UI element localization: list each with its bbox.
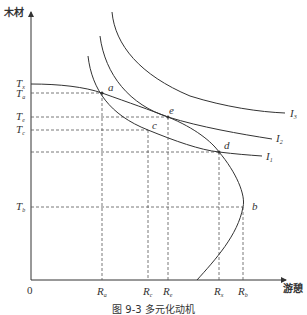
point-a-label: a	[108, 82, 114, 93]
point-c-label: c	[152, 120, 157, 131]
curve-i3-label: I3	[290, 108, 297, 120]
point-e-label: e	[169, 105, 174, 116]
diversification-motive-diagram	[0, 0, 307, 315]
x-tick-re: Re	[163, 286, 172, 298]
curve-i2-label: I2	[276, 133, 283, 145]
y-tick-te: Te	[16, 111, 25, 123]
x-tick-rb: Rb	[238, 286, 248, 298]
figure-caption: 图 9-3 多元化动机	[0, 305, 307, 315]
indifference-curve-i3	[112, 12, 285, 113]
point-d-label: d	[224, 140, 230, 151]
y-tick-tb: Tb	[16, 201, 25, 213]
point-a-marker	[101, 92, 104, 95]
y-axis-label: 木材	[4, 8, 24, 18]
indifference-curve-i2	[100, 36, 272, 139]
indifference-curve-i1	[88, 56, 262, 156]
origin-label: 0	[27, 285, 33, 296]
curve-i1-label: I1	[266, 151, 273, 163]
x-tick-ra: Ra	[97, 286, 107, 298]
point-d-marker	[218, 151, 221, 154]
y-tick-ta: Ta	[16, 88, 25, 100]
x-tick-rx: Rx	[214, 286, 223, 298]
y-tick-tc: Tc	[16, 124, 25, 136]
vertical-guides	[102, 93, 243, 280]
x-tick-rc: Rc	[143, 286, 152, 298]
horizontal-guides	[31, 93, 243, 207]
x-axis-label: 游憩	[283, 284, 303, 294]
production-frontier-curve	[31, 84, 244, 280]
point-b-label: b	[252, 201, 258, 212]
